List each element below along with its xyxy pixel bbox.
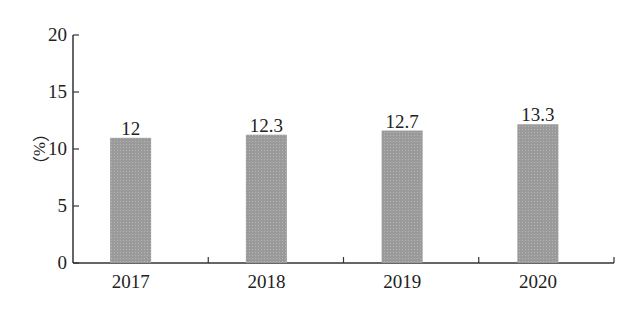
x-tick-label: 2018 (247, 271, 285, 292)
bar-2019 (382, 131, 423, 263)
data-label-2019: 12.7 (386, 111, 419, 132)
y-tick-label: 0 (58, 252, 68, 273)
bar-2017 (110, 138, 151, 263)
bar-chart: 05101520（%）12201712.3201812.7201913.3202… (0, 0, 639, 312)
y-tick-label: 15 (48, 81, 67, 102)
x-tick-label: 2017 (112, 271, 150, 292)
x-tick-label: 2020 (519, 271, 557, 292)
data-label-2018: 12.3 (250, 115, 283, 136)
bar-2020 (517, 124, 558, 263)
y-tick-label: 5 (58, 195, 68, 216)
data-label-2017: 12 (121, 118, 140, 139)
y-tick-label: 10 (48, 138, 67, 159)
x-tick-label: 2019 (383, 271, 421, 292)
bar-2018 (246, 135, 287, 263)
data-label-2020: 13.3 (521, 104, 554, 125)
y-axis-label: （%） (30, 125, 49, 173)
y-tick-label: 20 (48, 24, 67, 45)
chart-container: 05101520（%）12201712.3201812.7201913.3202… (0, 0, 639, 312)
